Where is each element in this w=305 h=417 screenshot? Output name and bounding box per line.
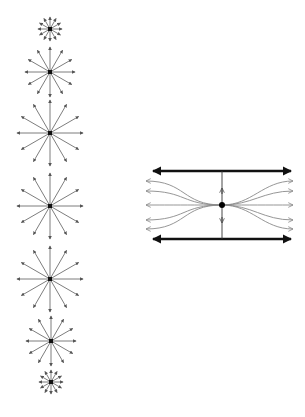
radial-star	[38, 17, 62, 41]
star-center-dot	[48, 277, 52, 281]
field-line-right	[222, 205, 293, 229]
field-line-left	[146, 205, 222, 229]
radial-field-column	[17, 17, 83, 394]
radial-star	[39, 370, 63, 394]
star-center-dot	[48, 204, 52, 208]
star-center-dot	[48, 131, 52, 135]
field-line-left	[146, 205, 222, 220]
diagram-canvas	[0, 0, 305, 417]
parallel-plate-field-diagram	[146, 171, 293, 239]
star-center-dot	[48, 70, 52, 74]
point-charge	[219, 202, 225, 208]
field-line-right	[222, 205, 293, 220]
radial-star	[25, 47, 75, 97]
radial-star	[17, 173, 83, 239]
radial-star	[26, 316, 76, 366]
star-center-dot	[49, 380, 53, 384]
star-center-dot	[49, 339, 53, 343]
field-line-left	[146, 181, 222, 205]
star-center-dot	[48, 27, 52, 31]
radial-star	[17, 246, 83, 312]
field-line-right	[222, 181, 293, 205]
radial-star	[17, 100, 83, 166]
